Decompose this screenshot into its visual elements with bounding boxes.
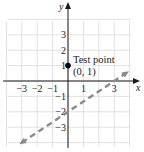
- x-axis-label: x: [135, 82, 141, 93]
- annotation-test-point-coords: (0, 1): [73, 66, 96, 78]
- test-point-marker: [65, 63, 71, 69]
- y-tick-label: −3: [55, 122, 66, 133]
- y-tick-label: −1: [55, 91, 66, 102]
- x-tick-label: 1: [81, 83, 86, 94]
- y-axis-label: y: [58, 1, 64, 12]
- y-axis-arrow-icon: [65, 2, 71, 9]
- y-tick-label: 3: [61, 29, 66, 40]
- coordinate-plane: x y −3−2−113321−1−2−3 Test point (0, 1): [0, 0, 144, 152]
- annotation-test-point-label: Test point: [73, 54, 115, 65]
- y-tick-label: 2: [61, 45, 66, 56]
- x-tick-label: −2: [32, 83, 43, 94]
- x-tick-label: −3: [16, 83, 27, 94]
- x-tick-label: 3: [112, 83, 117, 94]
- points-layer: [65, 63, 71, 69]
